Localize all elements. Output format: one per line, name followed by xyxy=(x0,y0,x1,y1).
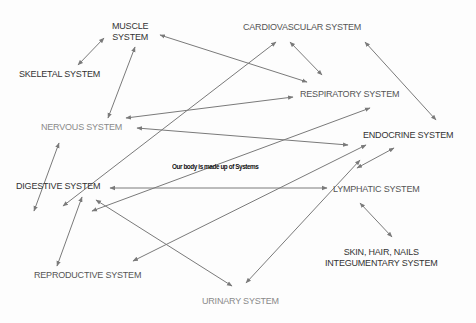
node-skin-line2: INTEGUMENTARY SYSTEM xyxy=(325,258,438,269)
node-urinary-system: URINARY SYSTEM xyxy=(202,296,279,307)
node-reproductive-system: REPRODUCTIVE SYSTEM xyxy=(34,270,141,281)
node-muscle-line1: MUSCLE xyxy=(112,21,148,32)
node-cardiovascular-system: CARDIOVASCULAR SYSTEM xyxy=(243,22,361,33)
node-muscle-system: MUSCLE SYSTEM xyxy=(112,21,148,43)
edge-skeletal-muscle xyxy=(78,38,104,65)
node-muscle-line2: SYSTEM xyxy=(112,32,148,43)
edge-respiratory-digestive xyxy=(92,108,370,211)
edge-muscle-nervous xyxy=(108,47,135,118)
edge-endocrine-lymphatic xyxy=(357,148,394,168)
node-skin-line1: SKIN, HAIR, NAILS xyxy=(325,247,438,258)
node-respiratory-system: RESPIRATORY SYSTEM xyxy=(300,89,399,100)
edge-nervous-digestive xyxy=(34,143,59,211)
node-endocrine-system: ENDOCRINE SYSTEM xyxy=(363,130,453,141)
body-systems-diagram: MUSCLE SYSTEM SKELETAL SYSTEM CARDIOVASC… xyxy=(0,0,476,323)
node-lymphatic-system: LYMPHATIC SYSTEM xyxy=(333,184,419,195)
edge-digestive-reproductive xyxy=(57,197,82,266)
edge-lymphatic-skin xyxy=(360,203,392,237)
node-digestive-system: DIGESTIVE SYSTEM xyxy=(16,181,100,192)
node-integumentary-system: SKIN, HAIR, NAILS INTEGUMENTARY SYSTEM xyxy=(325,247,438,269)
edge-cardiovascular-endocrine xyxy=(365,42,436,120)
edge-cardiovascular-respiratory xyxy=(290,42,322,75)
edge-nervous-endocrine xyxy=(137,128,348,145)
node-skeletal-system: SKELETAL SYSTEM xyxy=(19,69,100,80)
edge-respiratory-nervous xyxy=(126,97,293,118)
diagram-title: Our body is made up of Systems xyxy=(172,162,258,171)
node-nervous-system: NERVOUS SYSTEM xyxy=(41,122,122,133)
